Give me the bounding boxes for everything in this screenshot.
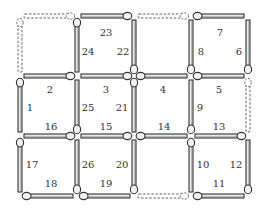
match-number-label: 18 <box>45 179 58 189</box>
matchstick-17 <box>16 138 23 192</box>
match-head-icon <box>66 132 75 139</box>
match-number-label: 2 <box>47 85 53 95</box>
match-number-label: 10 <box>197 160 210 170</box>
matchstick-21 <box>130 78 137 132</box>
match-head-icon <box>187 138 194 147</box>
matchstick-24 <box>73 18 80 72</box>
matchstick-6 <box>244 20 251 74</box>
match-head-icon <box>193 192 202 199</box>
matchstick-11 <box>193 192 244 199</box>
match-head-icon <box>193 72 202 79</box>
match-number-label: 12 <box>230 160 243 170</box>
match-number-label: 24 <box>82 47 95 57</box>
match-head-icon <box>16 138 23 147</box>
matchstick-13 <box>195 132 246 139</box>
match-head-icon <box>130 78 137 87</box>
match-number-label: 1 <box>27 103 33 113</box>
match-head-icon <box>136 72 145 79</box>
match-head-icon <box>16 78 23 87</box>
matchstick-2 <box>24 72 75 79</box>
match-head-icon <box>123 132 132 139</box>
matchstick-grid <box>0 0 267 213</box>
match-number-label: 9 <box>197 103 203 113</box>
missing-matchstick-outline <box>245 78 251 132</box>
matchstick-18 <box>22 192 73 199</box>
matchstick-10 <box>187 138 194 192</box>
match-number-label: 21 <box>116 103 129 113</box>
match-number-label: 14 <box>158 122 171 132</box>
match-number-label: 23 <box>100 28 113 38</box>
match-number-label: 19 <box>100 179 113 189</box>
match-number-label: 5 <box>216 85 222 95</box>
match-head-icon <box>79 192 88 199</box>
matchstick-8 <box>187 20 194 74</box>
match-head-icon <box>73 125 80 134</box>
match-number-label: 7 <box>217 28 223 38</box>
matchstick-19 <box>79 192 130 199</box>
match-head-icon <box>66 72 75 79</box>
match-head-icon <box>22 192 31 199</box>
missing-matchstick-outline <box>138 193 189 199</box>
missing-matchstick-outline <box>138 13 189 19</box>
matchstick-16 <box>24 132 75 139</box>
matchstick-4 <box>136 72 187 79</box>
match-head-icon <box>123 12 132 19</box>
match-head-icon <box>136 132 145 139</box>
match-number-label: 11 <box>213 179 226 189</box>
matchstick-3 <box>81 72 132 79</box>
matchstick-9 <box>187 80 194 134</box>
match-head-icon <box>130 65 137 74</box>
match-head-icon <box>187 125 194 134</box>
match-number-label: 6 <box>236 47 242 57</box>
match-number-label: 13 <box>213 122 226 132</box>
matchstick-1 <box>16 78 23 132</box>
matchstick-23 <box>81 12 132 19</box>
match-head-icon <box>244 185 251 194</box>
matchstick-25 <box>73 80 80 134</box>
match-number-label: 17 <box>26 160 39 170</box>
missing-matchstick-outline <box>24 13 75 19</box>
match-number-label: 8 <box>198 47 204 57</box>
matchstick-5 <box>193 72 244 79</box>
matchstick-20 <box>130 140 137 194</box>
matchstick-15 <box>81 132 132 139</box>
match-number-label: 20 <box>116 160 129 170</box>
match-head-icon <box>130 185 137 194</box>
match-head-icon <box>73 185 80 194</box>
match-head-icon <box>244 65 251 74</box>
matchstick-12 <box>244 140 251 194</box>
match-number-label: 15 <box>100 122 113 132</box>
match-head-icon <box>123 72 132 79</box>
matchstick-26 <box>73 140 80 194</box>
match-number-label: 22 <box>117 47 130 57</box>
match-head-icon <box>187 65 194 74</box>
matchstick-14 <box>136 132 187 139</box>
match-number-label: 26 <box>82 160 95 170</box>
match-number-label: 16 <box>45 122 58 132</box>
matchstick-puzzle: 2324227862345125219161514131726201012181… <box>0 0 267 213</box>
match-number-label: 25 <box>82 103 95 113</box>
matchstick-7 <box>193 12 244 19</box>
match-number-label: 3 <box>103 85 109 95</box>
matchstick-22 <box>130 20 137 74</box>
match-number-label: 4 <box>160 85 166 95</box>
match-head-icon <box>237 132 246 139</box>
match-head-icon <box>193 12 202 19</box>
match-head-icon <box>73 18 80 27</box>
missing-matchstick-outline <box>17 18 23 72</box>
